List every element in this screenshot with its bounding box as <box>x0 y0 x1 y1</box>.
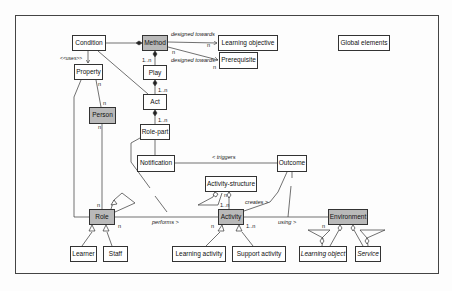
mult-role-right: n <box>118 223 121 229</box>
label-designed-towards-prerequisite: designed towards <box>171 57 215 63</box>
class-learning-objective: Learning objective <box>218 35 278 51</box>
mult-learning-objective: n <box>207 42 210 48</box>
class-environment: Environment <box>328 209 368 225</box>
class-activity-structure: Activity-structure <box>205 176 257 192</box>
class-person: Person <box>89 107 116 124</box>
mult-activity-right: 1..n <box>246 223 255 229</box>
mult-method: n <box>172 49 175 55</box>
class-play: Play <box>143 65 167 80</box>
class-property: Property <box>74 64 103 80</box>
label-designed-towards-objective: designed towards <box>171 31 215 37</box>
mult-activity-top-1n: 1..n <box>220 202 229 208</box>
class-role-part: Role-part <box>140 124 170 140</box>
mult-prerequisite: n <box>213 64 216 70</box>
mult-environment: n <box>322 223 325 229</box>
class-role: Role <box>89 209 115 225</box>
mult-play: 1..n <box>142 57 151 63</box>
label-triggers: < triggers <box>212 154 235 160</box>
class-learning-object: Learning object <box>299 246 347 262</box>
class-activity: Activity <box>218 209 244 225</box>
mult-person-bottom: n <box>98 124 101 130</box>
class-global-elements: Global elements <box>338 35 390 51</box>
mult-activity-top-n: n <box>224 192 227 198</box>
class-outcome: Outcome <box>277 155 307 172</box>
label-using: using > <box>278 219 296 225</box>
mult-act: 1..n <box>158 87 167 93</box>
mult-activity-left: n <box>211 223 214 229</box>
diagram-canvas: Condition Method Learning objective Glob… <box>0 0 452 291</box>
mult-role-top: n <box>97 202 100 208</box>
class-method: Method <box>142 35 168 51</box>
class-service: Service <box>355 246 381 262</box>
class-act: Act <box>143 94 167 110</box>
label-uses-stereotype: <<uses>> <box>60 55 82 61</box>
mult-property: n <box>98 81 101 87</box>
class-learner: Learner <box>70 246 97 262</box>
label-creates: creates > <box>245 199 268 205</box>
class-support-activity: Support activity <box>232 246 286 262</box>
mult-person-top: n <box>103 100 106 106</box>
class-condition: Condition <box>72 35 106 51</box>
class-staff: Staff <box>103 246 128 262</box>
class-prerequisite: Prerequisite <box>219 52 258 69</box>
class-notification: Notification <box>137 155 175 172</box>
class-learning-activity: Learning activity <box>172 246 226 262</box>
label-performs: performs > <box>152 219 179 225</box>
mult-role-part: 1..n <box>158 117 167 123</box>
